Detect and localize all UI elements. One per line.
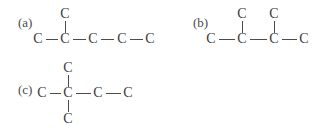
structure-a-bond-3-4 (101, 39, 114, 40)
structure-c-chain-atom-4: C (121, 86, 135, 100)
structure-a-bond-2-3 (73, 39, 86, 40)
structure-b-bond-2-3 (250, 39, 267, 40)
structure-a-branch-atom-1: C (58, 7, 72, 21)
structure-c-bond-1-2 (50, 93, 61, 94)
structure-b-chain-atom-4: C (297, 32, 311, 46)
structure-c-chain-atom-3: C (91, 86, 105, 100)
structure-a-bond-4-5 (130, 39, 143, 40)
structure-a-chain-atom-4: C (115, 32, 129, 46)
structure-a: (a) C C C C C C (0, 0, 170, 55)
structure-c-label: (c) (18, 83, 32, 96)
structure-b-label: (b) (193, 16, 208, 29)
structure-b-chain-atom-2: C (235, 32, 249, 46)
structure-c-chain-atom-2: C (61, 86, 75, 100)
structure-c-chain-atom-1: C (35, 86, 49, 100)
structure-b-branch-atom-2: C (267, 7, 281, 21)
structure-a-chain-atom-1: C (31, 32, 45, 46)
structure-a-bond-1-2 (46, 39, 58, 40)
structure-c-bond-2-3 (76, 93, 91, 94)
structure-b-bond-3-4 (282, 39, 297, 40)
structure-b-bond-1-2 (219, 39, 235, 40)
structure-c-bond-3-4 (106, 93, 121, 94)
structure-a-label: (a) (18, 16, 32, 29)
structure-b: (b) C C C C C C (190, 0, 317, 55)
structure-b-branch-atom-1: C (235, 7, 249, 21)
structure-c-branch-atom-up: C (61, 61, 75, 75)
structure-a-chain-atom-2: C (58, 32, 72, 46)
structure-b-chain-atom-1: C (204, 32, 218, 46)
structure-c-branch-atom-down: C (61, 112, 75, 126)
structure-a-chain-atom-3: C (86, 32, 100, 46)
structure-b-chain-atom-3: C (267, 32, 281, 46)
structure-a-chain-atom-5: C (143, 32, 157, 46)
structure-c: (c) C C C C C C (0, 55, 170, 136)
